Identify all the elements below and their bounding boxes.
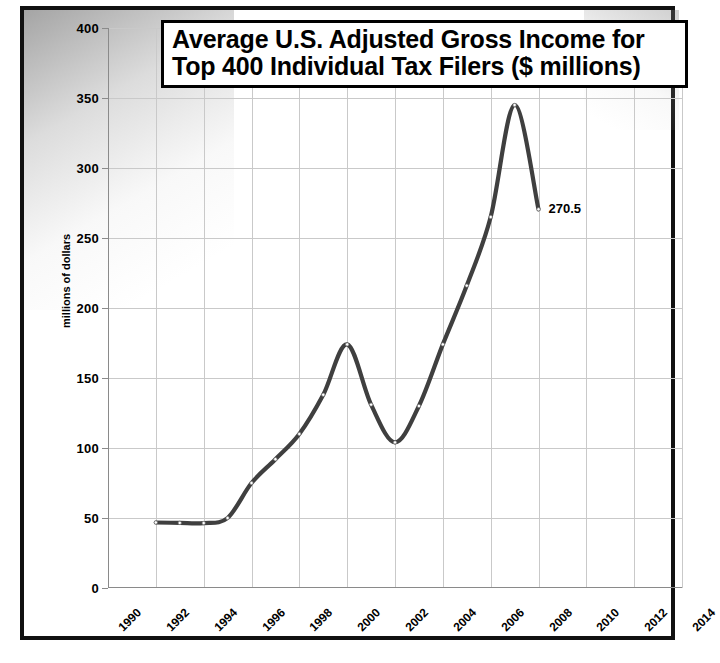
y-tick-label: 250 xyxy=(76,231,99,246)
x-tick-label: 2006 xyxy=(507,596,536,625)
series-marker xyxy=(226,516,229,519)
x-tick-label-text: 2008 xyxy=(546,605,575,634)
series-marker xyxy=(417,404,420,407)
x-tick-label-text: 2010 xyxy=(594,605,623,634)
x-tick-label: 2010 xyxy=(603,596,632,625)
series-marker xyxy=(250,481,253,484)
series-marker xyxy=(441,343,444,346)
x-tick-label-text: 2004 xyxy=(450,605,479,634)
y-tick-label: 50 xyxy=(84,511,99,526)
chart-title-line-1: Average U.S. Adjusted Gross Income for xyxy=(172,26,677,53)
x-tick-label-text: 2012 xyxy=(642,605,671,634)
chart-frame: Average U.S. Adjusted Gross Income for T… xyxy=(20,6,675,640)
x-tick-label-text: 1998 xyxy=(307,605,336,634)
x-tick-label-text: 2002 xyxy=(402,605,431,634)
x-tick-label-text: 2014 xyxy=(689,605,718,634)
data-point-label: 270.5 xyxy=(549,201,582,216)
x-tick-label: 2008 xyxy=(555,596,584,625)
x-tick-label: 1998 xyxy=(316,596,345,625)
series-marker xyxy=(178,521,181,524)
series-marker xyxy=(202,521,205,524)
y-tick-label: 350 xyxy=(76,91,99,106)
series-marker xyxy=(322,393,325,396)
chart-title-box: Average U.S. Adjusted Gross Income for T… xyxy=(161,20,688,88)
x-tick-label: 2002 xyxy=(412,596,441,625)
x-tick-label: 1992 xyxy=(173,596,202,625)
series-marker xyxy=(298,432,301,435)
x-tick-label: 2000 xyxy=(364,596,393,625)
chart-title-line-2: Top 400 Individual Tax Filers ($ million… xyxy=(172,53,677,80)
series-marker xyxy=(513,103,516,106)
x-tick-label: 2014 xyxy=(699,596,720,625)
series-marker xyxy=(154,521,157,524)
x-tick-label-text: 1996 xyxy=(259,605,288,634)
series-markers xyxy=(154,103,540,524)
x-tick-label-text: 1994 xyxy=(211,605,240,634)
x-tick-label-text: 1992 xyxy=(163,605,192,634)
x-tick-label: 2004 xyxy=(460,596,489,625)
y-tick-label: 150 xyxy=(76,371,99,386)
plot-area: 050100150200250300350400 199019921994199… xyxy=(108,28,682,588)
series-marker xyxy=(537,208,540,211)
series-marker xyxy=(465,284,468,287)
x-tick-label: 1996 xyxy=(268,596,297,625)
y-tick-label: 300 xyxy=(76,161,99,176)
x-tick-label-text: 2000 xyxy=(355,605,384,634)
x-tick-label-text: 1990 xyxy=(115,605,144,634)
y-tick-label: 0 xyxy=(91,581,99,596)
series-marker xyxy=(369,403,372,406)
y-axis-title: millions of dollars xyxy=(60,234,72,328)
series-marker xyxy=(345,343,348,346)
x-tick-label-text: 2006 xyxy=(498,605,527,634)
series-marker xyxy=(489,215,492,218)
series-line-path xyxy=(156,105,539,523)
y-tick-label: 100 xyxy=(76,441,99,456)
series-marker xyxy=(393,441,396,444)
x-tick-label: 2012 xyxy=(651,596,680,625)
x-tick-label: 1994 xyxy=(220,596,249,625)
series-marker xyxy=(274,458,277,461)
x-tick-label: 1990 xyxy=(125,596,154,625)
gridline-vertical xyxy=(682,28,683,588)
y-tick-mark xyxy=(102,588,108,589)
y-tick-label: 200 xyxy=(76,301,99,316)
y-tick-label: 400 xyxy=(76,21,99,36)
series-line-chart xyxy=(108,28,682,588)
